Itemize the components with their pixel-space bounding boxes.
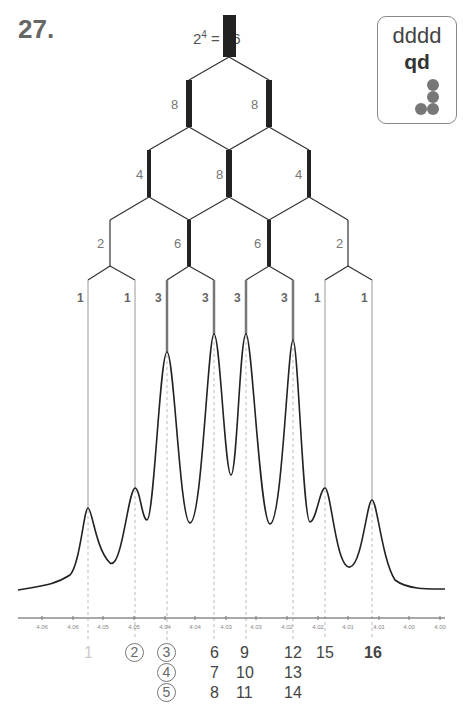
line-number-12: 12	[284, 644, 302, 662]
line-number-4: 4	[157, 663, 176, 682]
line-number-3: 3	[157, 643, 176, 662]
svg-text:6: 6	[254, 236, 261, 251]
svg-text:4.01: 4.01	[342, 624, 354, 630]
svg-text:8: 8	[251, 97, 258, 112]
svg-text:1: 1	[314, 291, 321, 305]
line-number-9: 9	[240, 644, 249, 662]
svg-text:1: 1	[77, 291, 84, 305]
line-number-11: 11	[236, 684, 253, 702]
svg-text:4.00: 4.00	[403, 624, 415, 630]
line-number-14: 14	[284, 684, 302, 702]
svg-text:4.04: 4.04	[189, 624, 201, 630]
svg-text:3: 3	[155, 291, 162, 305]
svg-text:1: 1	[361, 291, 368, 305]
svg-text:4: 4	[136, 167, 143, 182]
svg-text:4.06: 4.06	[36, 624, 48, 630]
splitting-tree-and-spectrum: 8 8 4 8 4 2 6 6 2 1 1 3 3 3 3 1 1	[0, 0, 463, 717]
svg-text:6: 6	[174, 236, 181, 251]
line-number-8: 8	[210, 684, 219, 702]
svg-text:1: 1	[124, 291, 131, 305]
svg-text:4.03: 4.03	[250, 624, 262, 630]
svg-text:3: 3	[234, 291, 241, 305]
svg-text:2: 2	[336, 236, 343, 251]
svg-text:8: 8	[171, 97, 178, 112]
line-number-16: 16	[364, 644, 382, 662]
svg-text:4.01: 4.01	[373, 624, 385, 630]
line-number-6: 6	[210, 644, 219, 662]
line-number-1: 1	[84, 644, 93, 662]
line-number-2: 2	[125, 643, 144, 662]
svg-text:3: 3	[281, 291, 288, 305]
svg-text:4.06: 4.06	[67, 624, 79, 630]
svg-text:3: 3	[202, 291, 209, 305]
svg-text:4.03: 4.03	[220, 624, 232, 630]
svg-text:4.02: 4.02	[281, 624, 293, 630]
line-number-15: 15	[316, 644, 334, 662]
svg-text:2: 2	[97, 236, 104, 251]
spectrum-curve	[18, 334, 445, 590]
svg-text:8: 8	[216, 167, 223, 182]
svg-text:4.05: 4.05	[97, 624, 109, 630]
line-number-5: 5	[157, 683, 176, 702]
svg-text:4: 4	[295, 167, 302, 182]
line-number-10: 10	[236, 664, 254, 682]
svg-text:4.05: 4.05	[128, 624, 140, 630]
svg-text:4.04: 4.04	[159, 624, 171, 630]
svg-text:4.00: 4.00	[434, 624, 446, 630]
line-number-13: 13	[284, 664, 302, 682]
svg-text:4.02: 4.02	[312, 624, 324, 630]
line-number-7: 7	[210, 664, 219, 682]
root-bar	[223, 15, 236, 57]
